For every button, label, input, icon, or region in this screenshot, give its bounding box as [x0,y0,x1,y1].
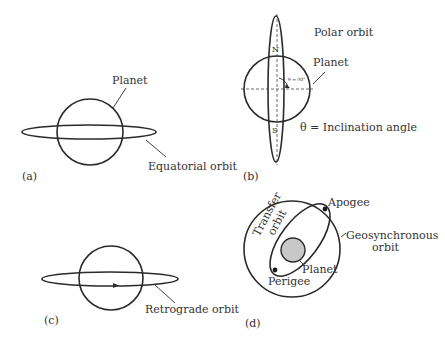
direction-arrow-icon [113,283,119,288]
panel-b: θ = 90° N S Polar orbit Planet θ = Incli… [241,14,417,183]
planet-disk [281,238,305,262]
panel-c: Retrograde orbit (c) [42,246,239,327]
planet-label: Planet [302,263,338,276]
planet-label: Planet [313,56,349,69]
orbit-types-diagram: Planet Equatorial orbit (a) θ = 90° N S … [0,0,445,340]
panel-label-d: (d) [245,317,261,330]
angle-value: θ = 90° [288,77,305,82]
perigee-label: Perigee [268,275,310,288]
inclination-legend: θ = Inclination angle [300,121,417,134]
panel-a: Planet Equatorial orbit (a) [22,74,238,183]
orbit-leader-line [146,140,166,157]
planet-circle [79,246,143,310]
planet-label: Planet [112,74,148,87]
geosynchronous-label-line2: orbit [372,241,399,254]
apogee-label: Apogee [327,196,370,209]
panel-label-b: (b) [243,170,259,183]
panel-d: Apogee Perigee Planet Geosynchronous orb… [244,190,439,330]
planet-leader-line [313,72,325,84]
polar-orbit-label: Polar orbit [314,26,374,39]
panel-label-a: (a) [22,170,37,183]
equatorial-orbit [22,125,156,139]
apogee-point [323,207,328,212]
retrograde-orbit-label: Retrograde orbit [145,303,239,316]
planet-circle [57,99,123,165]
perigee-point [273,268,278,273]
south-label: S [272,126,277,135]
retrograde-orbit [42,272,178,286]
equatorial-orbit-label: Equatorial orbit [148,160,238,173]
north-label: N [272,45,279,54]
planet-leader-line [113,88,126,108]
orbit-leader-line [155,285,175,303]
panel-label-c: (c) [44,314,59,327]
